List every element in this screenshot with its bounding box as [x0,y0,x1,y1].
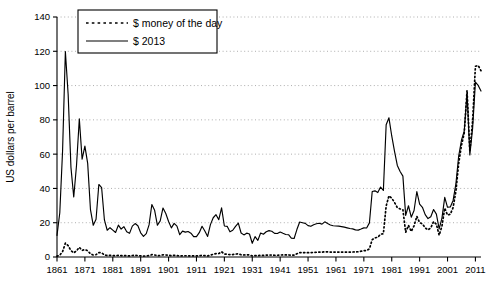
y-tick-label-40: 40 [39,183,50,194]
y-axis-title: US dollars per barrel [5,91,16,183]
x-tick-label-1881: 1881 [102,264,123,275]
y-tick-label-140: 140 [34,11,50,22]
x-tick-label-1871: 1871 [74,264,95,275]
x-tick-label-1941: 1941 [270,264,291,275]
y-tick-label-120: 120 [34,46,50,57]
y-tick-label-20: 20 [39,217,50,228]
oil-price-chart: 020406080100120140 186118711881189119011… [0,0,500,297]
y-tick-label-60: 60 [39,149,50,160]
y-tick-label-80: 80 [39,114,50,125]
y-tick-label-0: 0 [45,251,50,262]
y-tick-label-100: 100 [34,80,50,91]
x-tick-label-1901: 1901 [158,264,179,275]
x-tick-label-1891: 1891 [130,264,151,275]
chart-legend: $ money of the day $ 2013 [78,10,223,53]
x-tick-label-1911: 1911 [186,264,206,275]
x-tick-label-1951: 1951 [297,264,318,275]
legend-label-dollars-2013: $ 2013 [133,35,165,47]
x-tick-label-1991: 1991 [409,264,430,275]
x-tick-label-1961: 1961 [325,264,346,275]
x-tick-label-1971: 1971 [353,264,374,275]
legend-label-money-of-the-day: $ money of the day [133,17,223,29]
chart-canvas: 020406080100120140 186118711881189119011… [0,0,500,297]
x-tick-label-2011: 2011 [465,264,485,275]
x-tick-label-2001: 2001 [437,264,458,275]
x-tick-label-1861: 1861 [46,264,67,275]
x-tick-label-1931: 1931 [242,264,263,275]
x-tick-label-1921: 1921 [214,264,235,275]
x-tick-label-1981: 1981 [381,264,402,275]
